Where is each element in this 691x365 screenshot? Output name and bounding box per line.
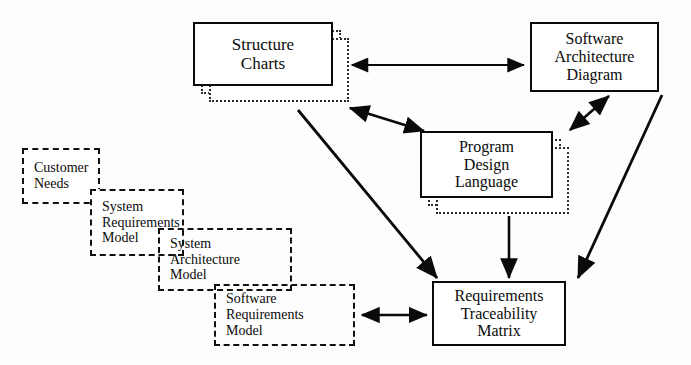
node-requirements-traceability-matrix-line-2: Traceability [461, 305, 538, 323]
node-requirements-traceability-matrix[interactable]: Requirements Traceability Matrix [432, 281, 566, 346]
node-software-architecture-diagram-line-1: Software [566, 30, 624, 48]
node-software-requirements-model-line-3: Model [226, 323, 263, 339]
node-software-requirements-model-line-1: Software [226, 291, 277, 307]
node-system-architecture-model-line-1: System [170, 236, 211, 252]
node-system-architecture-model-line-2: Architecture [170, 252, 240, 268]
wire-software-architecture-diagram-program-design-language [570, 96, 609, 130]
node-structure-charts[interactable]: Structure Charts [193, 22, 333, 86]
node-customer-needs-line-2: Needs [34, 176, 69, 192]
node-software-architecture-diagram[interactable]: Software Architecture Diagram [530, 22, 659, 92]
node-structure-charts-line-2: Charts [241, 54, 285, 73]
node-program-design-language[interactable]: Program Design Language [420, 131, 553, 198]
node-system-architecture-model-line-3: Model [170, 267, 207, 283]
node-software-architecture-diagram-line-3: Diagram [567, 66, 623, 84]
node-structure-charts-line-1: Structure [232, 35, 294, 54]
wire-structure-charts-program-design-language [350, 108, 424, 131]
node-system-requirements-model-line-1: System [102, 199, 143, 215]
wire-software-architecture-diagram-requirements-traceability-matrix [578, 95, 662, 278]
node-software-architecture-diagram-line-2: Architecture [555, 48, 635, 66]
node-system-requirements-model-line-3: Model [102, 230, 139, 246]
node-requirements-traceability-matrix-line-1: Requirements [455, 287, 544, 305]
node-program-design-language-line-1: Program [459, 138, 514, 156]
node-program-design-language-line-3: Language [455, 173, 518, 191]
node-customer-needs-line-1: Customer [34, 160, 88, 176]
node-program-design-language-line-2: Design [464, 156, 509, 174]
wire-structure-charts-requirements-traceability-matrix [298, 110, 437, 278]
node-customer-needs[interactable]: Customer Needs [22, 148, 100, 204]
node-software-requirements-model[interactable]: Software Requirements Model [214, 284, 355, 346]
node-requirements-traceability-matrix-line-3: Matrix [477, 322, 521, 340]
node-system-architecture-model[interactable]: System Architecture Model [158, 228, 292, 291]
diagram-canvas: Structure Charts Software Architecture D… [0, 0, 691, 365]
node-software-requirements-model-line-2: Requirements [226, 307, 304, 323]
